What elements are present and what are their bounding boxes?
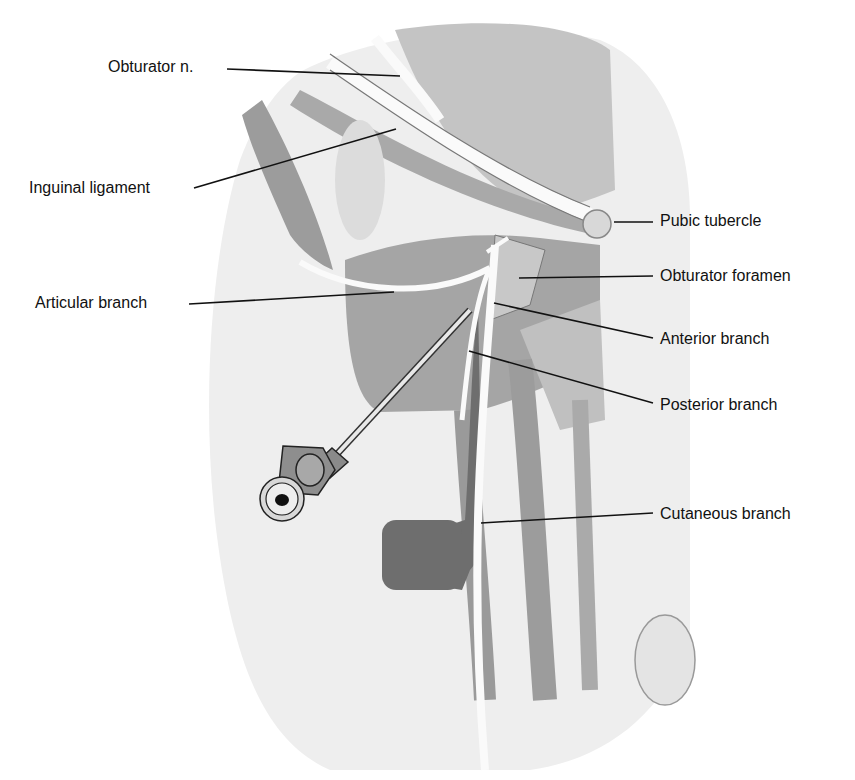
label-posterior-branch: Posterior branch — [660, 396, 777, 414]
label-anterior-branch: Anterior branch — [660, 330, 769, 348]
label-cutaneous-branch: Cutaneous branch — [660, 505, 791, 523]
label-inguinal-ligament: Inguinal ligament — [29, 179, 150, 197]
label-articular-branch: Articular branch — [35, 294, 147, 312]
label-obturator-nerve: Obturator n. — [108, 58, 193, 76]
anatomy-illustration — [0, 0, 855, 780]
pubic-tubercle-shape — [583, 210, 611, 238]
label-obturator-foramen: Obturator foramen — [660, 267, 791, 285]
label-pubic-tubercle: Pubic tubercle — [660, 212, 761, 230]
